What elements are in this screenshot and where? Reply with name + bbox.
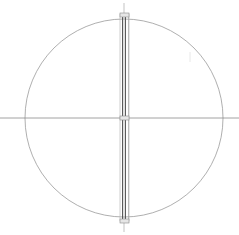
top-node (120, 13, 129, 17)
center-node (120, 116, 129, 120)
background (0, 0, 239, 235)
footer-text (2, 226, 237, 234)
bottom-node (120, 219, 129, 223)
drawing-canvas (0, 0, 239, 235)
